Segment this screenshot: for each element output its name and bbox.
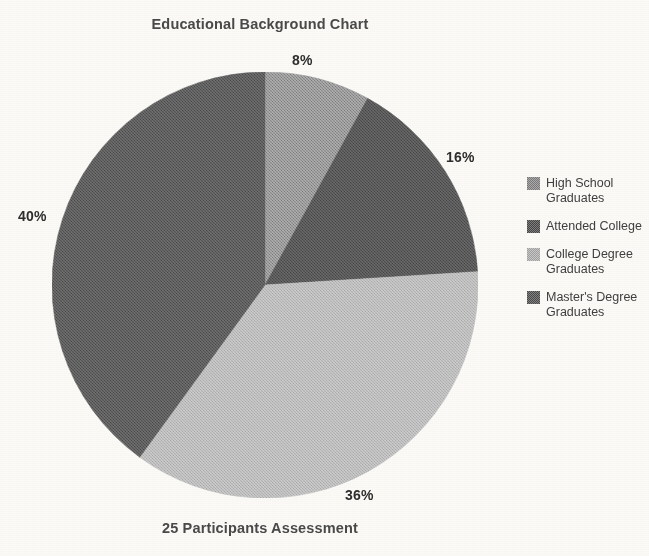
pie-slice-group xyxy=(52,72,478,498)
legend-item[interactable]: College Degree Graduates xyxy=(527,247,645,277)
pie-value-label-masters-degree: 40% xyxy=(18,208,47,224)
pie-value-label-high-school: 8% xyxy=(292,52,313,68)
legend-swatch-icon xyxy=(527,177,540,190)
chart-page: Educational Background Chart 8% 16% 36% … xyxy=(0,0,649,556)
chart-caption: 25 Participants Assessment xyxy=(0,520,520,536)
legend-item-label: College Degree Graduates xyxy=(546,247,645,277)
legend-item-label: Attended College xyxy=(546,219,642,234)
pie-value-label-attended-college: 16% xyxy=(446,149,475,165)
legend-swatch-icon xyxy=(527,220,540,233)
pie-chart xyxy=(52,72,478,498)
legend-item[interactable]: Attended College xyxy=(527,219,645,234)
pie-value-label-college-degree: 36% xyxy=(345,487,374,503)
chart-title: Educational Background Chart xyxy=(0,16,520,32)
pie-svg xyxy=(52,72,478,498)
legend-item[interactable]: High School Graduates xyxy=(527,176,645,206)
legend-item-label: Master's Degree Graduates xyxy=(546,290,645,320)
legend-swatch-icon xyxy=(527,291,540,304)
legend-item-label: High School Graduates xyxy=(546,176,645,206)
chart-legend: High School GraduatesAttended CollegeCol… xyxy=(527,176,645,333)
legend-swatch-icon xyxy=(527,248,540,261)
legend-item[interactable]: Master's Degree Graduates xyxy=(527,290,645,320)
